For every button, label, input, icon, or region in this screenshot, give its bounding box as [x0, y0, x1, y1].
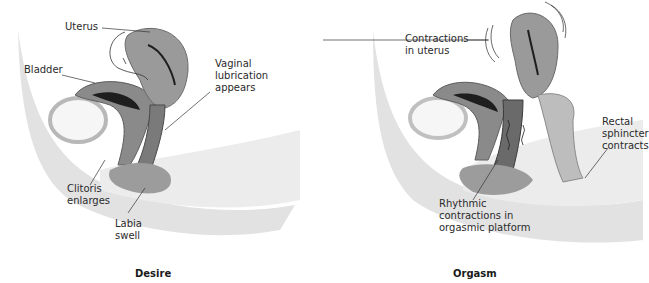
label-rhythmic-contractions: Rhythmic contractions in orgasmic platfo… — [439, 198, 530, 234]
orgasm-panel: Contractions in uterus Rectal sphincter … — [323, 0, 646, 283]
label-vaginal-lubrication: Vaginal lubrication appears — [215, 58, 268, 94]
label-contractions-uterus: Contractions in uterus — [405, 33, 468, 57]
caption-desire: Desire — [135, 268, 171, 279]
caption-orgasm: Orgasm — [453, 268, 497, 279]
label-clitoris: Clitoris enlarges — [67, 183, 110, 207]
label-uterus: Uterus — [65, 21, 98, 33]
label-rectal-sphincter: Rectal sphincter contracts — [602, 116, 649, 152]
desire-anatomy-illustration — [0, 0, 323, 283]
label-bladder: Bladder — [24, 64, 63, 76]
orgasm-anatomy-illustration — [323, 0, 646, 283]
desire-panel: Uterus Bladder Vaginal lubrication appea… — [0, 0, 323, 283]
label-labia: Labia swell — [115, 218, 142, 242]
